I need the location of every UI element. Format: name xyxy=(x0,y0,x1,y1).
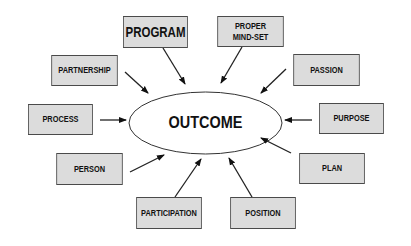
node-purpose: PURPOSE xyxy=(319,103,384,134)
outcome-label: OUTCOME xyxy=(140,92,270,154)
node-label: PARTNERSHIP xyxy=(58,65,110,76)
node-proper-mind-set: PROPER MIND-SET xyxy=(217,16,283,47)
arrow-partnership xyxy=(125,72,148,93)
arrow-proper-mind-set xyxy=(221,47,242,83)
node-label: PROCESS xyxy=(42,114,78,125)
node-partnership: PARTNERSHIP xyxy=(51,55,117,86)
node-label: PROPER MIND-SET xyxy=(233,21,269,43)
arrow-participation xyxy=(175,159,201,197)
arrow-position xyxy=(229,158,252,197)
node-plan: PLAN xyxy=(299,153,365,184)
arrow-program xyxy=(163,48,185,84)
node-label: PARTICIPATION xyxy=(141,208,197,219)
node-label: POSITION xyxy=(245,208,280,219)
node-label: PERSON xyxy=(74,164,105,175)
node-process: PROCESS xyxy=(28,104,93,135)
arrow-passion xyxy=(261,69,286,93)
outcome-diagram: OUTCOME PROGRAMPROPER MIND-SETPARTNERSHI… xyxy=(0,0,411,246)
node-participation: PARTICIPATION xyxy=(136,197,202,229)
node-program: PROGRAM xyxy=(123,16,188,48)
node-person: PERSON xyxy=(56,153,122,185)
node-label: PURPOSE xyxy=(333,113,369,124)
node-label: PASSION xyxy=(310,65,343,76)
arrow-person xyxy=(130,155,164,172)
node-position: POSITION xyxy=(230,197,296,229)
node-label: PLAN xyxy=(322,163,342,174)
node-label: PROGRAM xyxy=(126,24,186,41)
node-passion: PASSION xyxy=(293,54,359,86)
